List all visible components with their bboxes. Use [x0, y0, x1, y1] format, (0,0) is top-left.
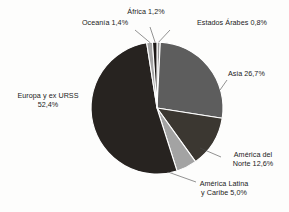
pie-label-oceania-text: Oceanía 1,4%: [69, 19, 141, 28]
pie-label-oceania: Oceanía 1,4%: [69, 19, 141, 28]
pie-label-america-del-norte: América del Norte 12,6%: [222, 151, 284, 168]
pie-label-asia: Asia 26,7%: [228, 70, 286, 79]
pie-chart-figure: África 1,2% Oceanía 1,4% Estados Árabes …: [0, 0, 289, 212]
pie-label-europa-ex-urss-line2: 52,4%: [6, 101, 90, 110]
pie-label-africa: África 1,2%: [103, 8, 189, 17]
asia-leader: [220, 80, 227, 90]
arabes-leader: [159, 30, 170, 42]
pie-label-estados-arabes-text: Estados Árabes 0,8%: [163, 19, 267, 28]
pie-label-estados-arabes: Estados Árabes 0,8%: [163, 19, 267, 28]
pie-label-europa-ex-urss: Europa y ex URSS 52,4%: [6, 92, 90, 109]
pie-slice-asia[interactable]: [157, 42, 223, 118]
pie-slice-group: [91, 42, 223, 174]
pie-label-america-latina-caribe: América Latina y Caribe 5,0%: [178, 180, 270, 197]
pie-label-america-latina-caribe-line2: y Caribe 5,0%: [178, 189, 270, 198]
pie-label-africa-text: África 1,2%: [103, 8, 189, 17]
pie-label-asia-text: Asia 26,7%: [228, 70, 286, 79]
pie-label-america-del-norte-line2: Norte 12,6%: [222, 160, 284, 169]
africa-leader: [150, 27, 155, 43]
oceania-leader: [135, 30, 151, 43]
